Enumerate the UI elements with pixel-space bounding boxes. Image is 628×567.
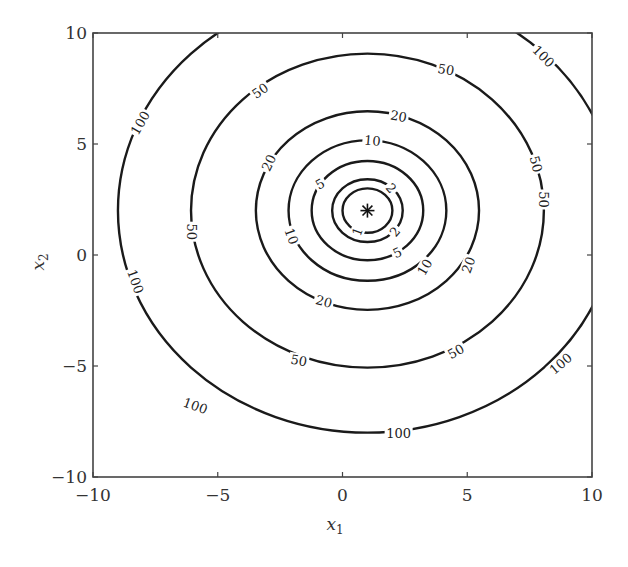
contour-label: 100 [180, 394, 211, 418]
svg-text:50: 50 [437, 61, 456, 79]
y-tick-label: −5 [62, 356, 87, 376]
svg-text:50: 50 [289, 352, 308, 370]
svg-text:50: 50 [184, 223, 199, 240]
svg-text:50: 50 [536, 191, 551, 208]
contour-labels: 1225510101020202020505050505050501001001… [124, 41, 577, 441]
contour-chart: 1225510101020202020505050505050501001001… [0, 0, 628, 567]
y-tick-label: −10 [51, 467, 87, 487]
x-tick-label: −5 [205, 485, 230, 505]
contour-label: 50 [288, 351, 310, 369]
contour-label: 100 [124, 266, 148, 297]
x-axis-label: x1 [326, 514, 343, 537]
contour-label: 50 [248, 79, 273, 103]
svg-text:20: 20 [389, 107, 408, 125]
y-tick-label: 10 [65, 23, 87, 43]
contour-label: 20 [312, 292, 335, 312]
svg-text:100: 100 [181, 395, 209, 418]
y-axis-label: x2 [28, 253, 51, 270]
contour-label: 50 [444, 340, 469, 363]
contour-label: 2 [385, 222, 404, 241]
contour-label: 50 [536, 190, 551, 210]
svg-text:100: 100 [124, 267, 147, 295]
x-axis-ticks: −10−50510 [75, 33, 603, 505]
svg-text:10: 10 [364, 132, 382, 148]
x-tick-label: 10 [581, 485, 603, 505]
contour-label: 50 [526, 152, 546, 175]
contour-label: 50 [435, 61, 457, 79]
contour-label: 100 [385, 426, 413, 441]
contour-label: 5 [389, 243, 406, 262]
contour-label: 50 [184, 222, 199, 242]
svg-text:10: 10 [414, 256, 435, 278]
y-axis-ticks: −10−50510 [51, 23, 592, 487]
svg-text:100: 100 [386, 426, 411, 441]
y-tick-label: 0 [76, 245, 87, 265]
contour-label: 10 [413, 255, 436, 280]
svg-text:50: 50 [249, 80, 271, 102]
y-tick-label: 5 [76, 134, 87, 154]
x-tick-label: 5 [462, 485, 473, 505]
contour-label: 10 [362, 132, 383, 149]
contour-label: 100 [545, 349, 576, 378]
contour-label: 100 [127, 107, 154, 139]
svg-text:50: 50 [445, 341, 467, 362]
minimum-star-marker [360, 204, 374, 218]
x-tick-label: 0 [337, 485, 348, 505]
contour-label: 20 [387, 107, 409, 125]
contour-label: 20 [458, 253, 479, 277]
x-tick-label: −10 [75, 485, 111, 505]
